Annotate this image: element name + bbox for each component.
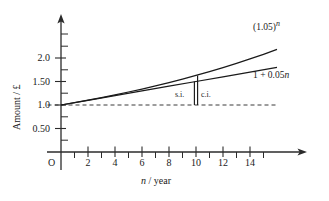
simple-curve-label: 1 + 0.05n [253,71,289,81]
curve-compound-interest [61,49,277,105]
chart-figure: 2.0 1.50 1.0 0.50 O 2 4 6 8 10 12 14 Amo… [0,0,329,201]
ci-marker-label: c.i. [201,91,211,99]
x-tick-label-14: 14 [240,158,260,168]
x-axis-title: n / year [141,176,171,186]
compound-curve-label: (1.05)n [253,20,280,33]
y-axis-minor-ticks [61,34,68,140]
y-axis [57,14,64,170]
x-tick-label-12: 12 [213,158,233,168]
simple-curve-label-variable: n [284,70,289,80]
x-tick-label-4: 4 [105,158,125,168]
x-tick-label-6: 6 [132,158,152,168]
y-tick-label-1: 1.0 [22,100,50,110]
y-axis-title: Amount / £ [12,84,22,130]
si-marker-label: s.i. [175,91,184,99]
origin-label: O [48,158,55,168]
interest-difference-marker [194,75,197,105]
x-axis-title-unit: / year [146,175,171,186]
x-tick-label-8: 8 [159,158,179,168]
compound-curve-label-base: (1.05) [253,22,276,32]
x-tick-label-10: 10 [186,158,206,168]
y-tick-label-2: 2.0 [22,53,50,63]
simple-curve-label-text: 1 + 0.05 [253,70,284,80]
compound-curve-label-exponent: n [276,19,280,28]
x-tick-label-2: 2 [78,158,98,168]
curve-simple-interest [61,67,277,105]
x-axis [47,148,307,155]
